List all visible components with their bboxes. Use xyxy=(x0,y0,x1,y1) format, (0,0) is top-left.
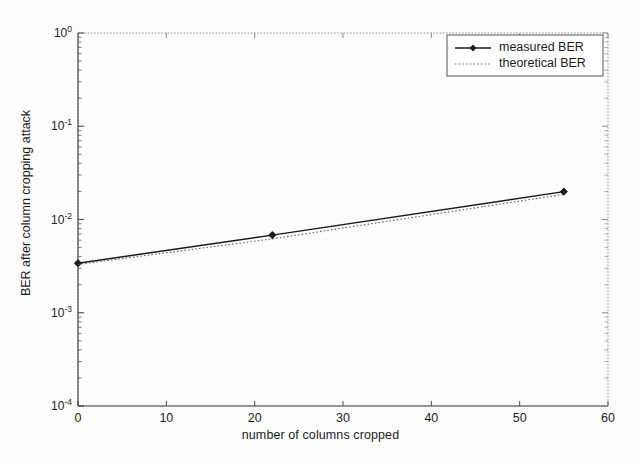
series-marker-0 xyxy=(560,188,567,195)
x-tick-label: 10 xyxy=(159,411,173,425)
y-axis-title-wrap: BER after column cropping attack xyxy=(13,0,39,406)
y-axis-title: BER after column cropping attack xyxy=(19,110,33,296)
axis-ticks xyxy=(78,33,608,406)
y-tick-label: 100 xyxy=(36,26,72,40)
series-line-0 xyxy=(78,192,564,264)
chart-figure: BER after column cropping attack number … xyxy=(0,0,641,463)
y-tick-label: 10-1 xyxy=(36,119,72,133)
y-tick-label: 10-4 xyxy=(36,399,72,413)
plot-frame xyxy=(78,33,608,406)
x-tick-label: 30 xyxy=(336,411,350,425)
plot-border-dotted xyxy=(78,33,608,406)
legend-item-label: theoretical BER xyxy=(499,56,586,70)
legend-item-label: measured BER xyxy=(499,40,584,54)
series-marker-0 xyxy=(74,260,81,267)
x-tick-label: 0 xyxy=(75,411,82,425)
y-tick-label: 10-2 xyxy=(36,213,72,227)
y-tick-label: 10-3 xyxy=(36,306,72,320)
series-line-1 xyxy=(78,194,564,264)
x-tick-label: 60 xyxy=(601,411,615,425)
series-marker-0 xyxy=(269,232,276,239)
x-axis-title: number of columns cropped xyxy=(0,428,641,442)
data-series-group xyxy=(74,188,567,267)
x-tick-label: 50 xyxy=(513,411,527,425)
x-tick-label: 40 xyxy=(424,411,438,425)
x-tick-label: 20 xyxy=(248,411,262,425)
